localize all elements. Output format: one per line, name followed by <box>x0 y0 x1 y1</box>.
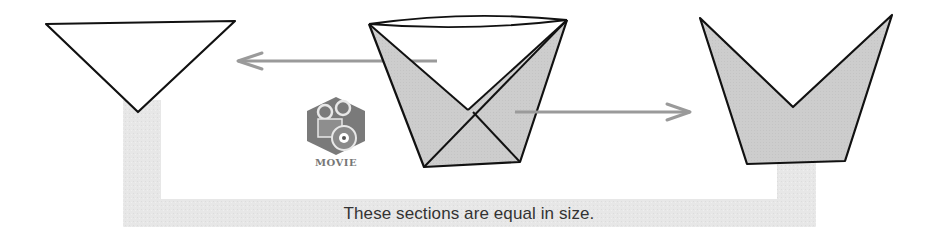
arrow-to-right-section <box>515 104 690 120</box>
movie-badge-label: MOVIE <box>303 157 369 168</box>
left-triangle-section <box>46 21 235 112</box>
right-crown-section <box>700 15 892 164</box>
origami-diagram <box>0 0 936 227</box>
center-folded-cup <box>369 16 567 167</box>
movie-icon[interactable] <box>307 97 365 155</box>
caption: These sections are equal in size. <box>123 202 815 227</box>
